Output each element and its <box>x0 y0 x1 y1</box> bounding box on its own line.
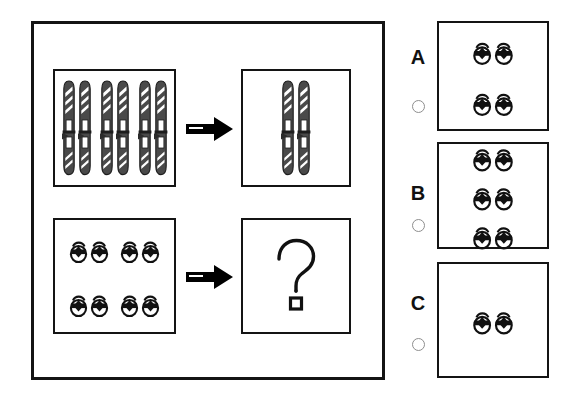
ski-pair <box>281 80 311 176</box>
ski-icon <box>100 80 114 176</box>
shoe-pair <box>439 219 547 250</box>
ski-icon <box>62 80 76 176</box>
shoe-pair-icon <box>471 86 515 117</box>
shoe-pair <box>439 180 547 211</box>
shoe-group-grid <box>439 137 547 254</box>
option-b-radio[interactable] <box>412 219 425 232</box>
ski-icon <box>138 80 152 176</box>
shoe-pair <box>115 288 167 318</box>
ski-group-row <box>55 80 174 176</box>
option-b-letter: B <box>405 183 431 203</box>
transform-arrow-icon <box>186 262 234 292</box>
shoe-pair <box>439 86 547 117</box>
ski-icon <box>154 80 168 176</box>
answer-placeholder-panel <box>241 218 351 334</box>
ski-pair <box>62 80 92 176</box>
option-c-radio[interactable] <box>412 338 425 351</box>
shoe-pair-icon <box>68 288 110 318</box>
shoe-pair <box>439 305 547 336</box>
ski-pair <box>138 80 168 176</box>
shoe-pair-icon <box>471 219 515 250</box>
shoe-pair <box>439 141 547 172</box>
shoe-pair <box>439 35 547 66</box>
ski-pair <box>100 80 130 176</box>
option-c-panel[interactable] <box>437 262 549 378</box>
shoe-pair-icon <box>471 35 515 66</box>
ski-icon <box>78 80 92 176</box>
option-a-letter: A <box>405 47 431 67</box>
shoe-pair-icon <box>119 288 161 318</box>
transform-arrow-icon <box>186 114 234 144</box>
skis-result-panel <box>241 69 351 187</box>
shoe-pair <box>63 288 115 318</box>
option-a-panel[interactable] <box>437 21 549 131</box>
shoe-pair <box>115 234 167 264</box>
option-b-panel[interactable] <box>437 142 549 249</box>
ski-icon <box>297 80 311 176</box>
shoe-group-grid <box>439 305 547 336</box>
shoe-pair-icon <box>119 234 161 264</box>
ski-group-row <box>243 80 349 176</box>
question-frame <box>31 21 385 380</box>
shoe-pair-icon <box>471 141 515 172</box>
ski-icon <box>281 80 295 176</box>
question-mark-icon <box>270 237 322 315</box>
shoe-pair-icon <box>471 180 515 211</box>
ski-icon <box>116 80 130 176</box>
shoe-pair <box>63 234 115 264</box>
shoe-pair-icon <box>68 234 110 264</box>
shoe-pair-icon <box>471 305 515 336</box>
shoes-source-panel <box>53 218 176 334</box>
skis-source-panel <box>53 69 176 187</box>
shoe-group-grid <box>439 25 547 127</box>
option-c-letter: C <box>405 293 431 313</box>
option-a-radio[interactable] <box>412 100 425 113</box>
shoe-group-grid <box>55 222 174 330</box>
